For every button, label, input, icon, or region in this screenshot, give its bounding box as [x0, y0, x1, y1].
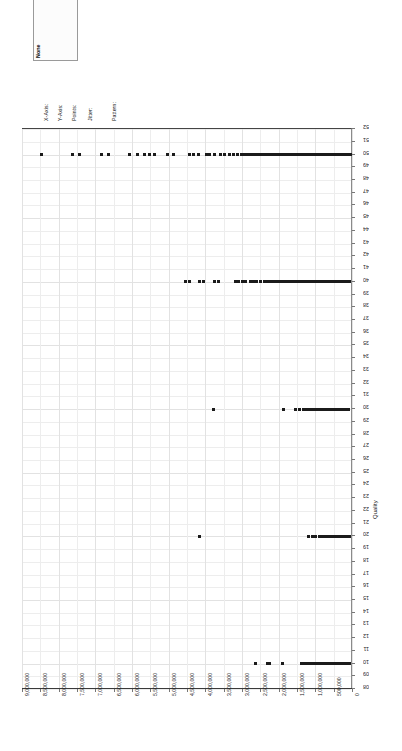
pattern-label: Pattern: — [111, 102, 117, 121]
x-tick-label: 19 — [355, 544, 369, 550]
controls-panel: X-Axis: Quality Y-Axis: Total Cost Point… — [33, 21, 160, 123]
data-point — [202, 280, 205, 283]
y-tick-label: 3,500,000 — [226, 673, 232, 696]
x-tick-label: 08 — [355, 684, 369, 690]
gridline-vertical — [77, 129, 78, 688]
data-point — [259, 280, 262, 283]
data-point — [198, 535, 201, 538]
x-tick-label: 12 — [355, 633, 369, 639]
y-tick-mark — [132, 689, 133, 692]
gridline-vertical — [260, 129, 261, 688]
data-point — [213, 280, 216, 283]
data-point — [205, 153, 208, 156]
data-point — [212, 408, 215, 411]
data-point — [236, 153, 239, 156]
data-point — [294, 408, 297, 411]
y-tick-label: 6,000,000 — [134, 673, 140, 696]
y-axis-label: Y-Axis: — [57, 104, 63, 121]
data-point — [188, 280, 191, 283]
data-point — [172, 153, 175, 156]
x-tick-label: 22 — [355, 506, 369, 512]
gridline-vertical — [95, 129, 96, 688]
data-point — [192, 153, 195, 156]
x-tick-label: 37 — [355, 315, 369, 321]
y-tick-mark — [352, 689, 353, 692]
y-tick-label: 0 — [354, 693, 360, 696]
x-tick-label: 26 — [355, 455, 369, 461]
data-point — [208, 153, 211, 156]
y-tick-mark — [114, 689, 115, 692]
data-point — [348, 280, 351, 283]
data-point — [347, 408, 350, 411]
gridline-vertical — [205, 129, 206, 688]
y-tick-label: 4,000,000 — [207, 673, 213, 696]
data-point — [228, 153, 231, 156]
x-tick-label: 52 — [355, 124, 369, 130]
data-point — [197, 153, 200, 156]
x-axis-label-wrap: X-Axis: — [43, 104, 49, 121]
x-tick-label: 09 — [355, 671, 369, 677]
x-tick-label: 11 — [355, 646, 369, 652]
points-label-wrap: Points: — [71, 104, 77, 121]
x-tick-label: 49 — [355, 162, 369, 168]
y-tick-label: 8,000,000 — [61, 673, 67, 696]
y-tick-label: 4,500,000 — [189, 673, 195, 696]
y-tick-mark — [224, 689, 225, 692]
y-tick-mark — [187, 689, 188, 692]
data-point — [136, 153, 139, 156]
x-tick-label: 20 — [355, 531, 369, 537]
x-tick-label: 43 — [355, 239, 369, 245]
x-tick-label: 35 — [355, 340, 369, 346]
data-point — [268, 662, 271, 665]
data-point — [217, 280, 220, 283]
data-point — [188, 153, 191, 156]
data-point — [128, 153, 131, 156]
data-point — [232, 153, 235, 156]
data-point — [148, 153, 151, 156]
x-tick-label: 44 — [355, 226, 369, 232]
data-point — [348, 535, 351, 538]
x-tick-label: 41 — [355, 264, 369, 270]
x-tick-label: 15 — [355, 595, 369, 601]
y-tick-label: 8,500,000 — [42, 673, 48, 696]
x-tick-label: 14 — [355, 608, 369, 614]
x-tick-label: 48 — [355, 175, 369, 181]
data-point — [254, 662, 257, 665]
jitter-label-wrap: Jitter: — [87, 108, 93, 121]
x-tick-label: 31 — [355, 391, 369, 397]
x-tick-label: 51 — [355, 137, 369, 143]
y-tick-mark — [22, 689, 23, 692]
data-point — [241, 280, 244, 283]
x-tick-label: 34 — [355, 353, 369, 359]
data-point — [282, 408, 285, 411]
x-tick-label: 29 — [355, 417, 369, 423]
pattern-listbox[interactable]: None — [33, 0, 78, 61]
y-tick-label: 7,000,000 — [97, 673, 103, 696]
y-tick-label: 1,000,000 — [317, 673, 323, 696]
x-tick-label: 47 — [355, 188, 369, 194]
y-tick-mark — [334, 689, 335, 692]
y-tick-label: 1,500,000 — [299, 673, 305, 696]
y-tick-label: 500,000 — [336, 677, 342, 696]
x-tick-label: 23 — [355, 493, 369, 499]
data-point — [307, 535, 310, 538]
scatter-chart: 0809101112131415161718192021222324252627… — [0, 124, 402, 744]
x-tick-label: 17 — [355, 570, 369, 576]
y-tick-label: 9,000,000 — [24, 673, 30, 696]
y-tick-mark — [242, 689, 243, 692]
gridline-vertical — [224, 129, 225, 688]
data-point — [143, 153, 146, 156]
data-point — [219, 153, 222, 156]
x-tick-label: 39 — [355, 290, 369, 296]
pattern-option-none[interactable]: None — [34, 0, 42, 60]
x-tick-label: 32 — [355, 379, 369, 385]
jitter-label: Jitter: — [87, 108, 93, 121]
data-point — [71, 153, 74, 156]
data-point — [184, 280, 187, 283]
y-tick-label: 5,500,000 — [152, 673, 158, 696]
gridline-vertical — [132, 129, 133, 688]
x-tick-label: 16 — [355, 582, 369, 588]
data-point — [107, 153, 110, 156]
x-tick-label: 40 — [355, 277, 369, 283]
gridline-vertical — [40, 129, 41, 688]
